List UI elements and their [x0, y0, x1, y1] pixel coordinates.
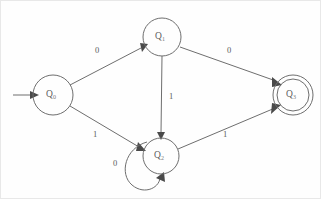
transition-q2-q3: 1: [178, 103, 281, 149]
transition-q0-q1: 0: [70, 43, 148, 85]
state-node-q2[interactable]: Q2: [143, 138, 179, 174]
edge-label-q2-q3: 1: [223, 129, 227, 139]
start-arrow: [13, 91, 39, 99]
state-node-q1[interactable]: Q1: [143, 18, 181, 56]
edge-label-q1-q3: 0: [227, 45, 231, 55]
fsm-svg: 0 1 1 0 1 0: [1, 1, 321, 199]
edge-label-q0-q1: 0: [95, 45, 99, 55]
fsm-diagram-canvas: 0 1 1 0 1 0: [0, 0, 321, 199]
state-label-q0: Q0: [46, 89, 56, 100]
transition-q0-q2: 1: [70, 106, 146, 151]
edge-label-q1-q2: 1: [169, 91, 173, 101]
state-label-q2: Q2: [154, 150, 164, 161]
state-label-q1: Q1: [155, 31, 165, 42]
edge-label-q2-self: 0: [113, 158, 117, 168]
transition-q1-q3: 0: [180, 45, 282, 87]
transition-q1-q2: 1: [157, 56, 173, 140]
edge-label-q0-q2: 1: [93, 129, 97, 139]
state-node-q3[interactable]: Q3: [273, 75, 313, 115]
state-label-q3: Q3: [286, 89, 296, 100]
